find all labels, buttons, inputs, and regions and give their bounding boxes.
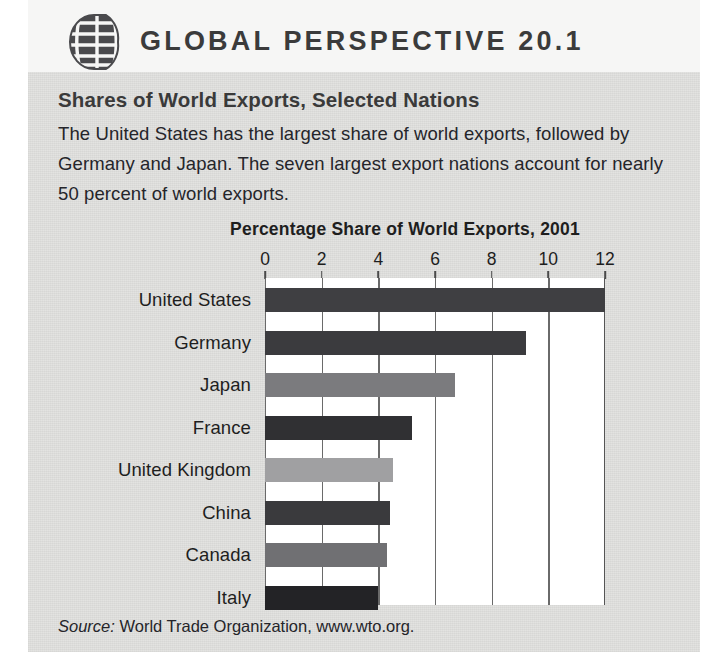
y-axis-category-labels: United StatesGermanyJapanFranceUnited Ki… [60,278,260,605]
x-tick-label: 8 [487,249,497,270]
figure-page: GLOBAL PERSPECTIVE 20.1 Shares of World … [0,0,720,660]
globe-icon [66,14,122,70]
bar-series [265,278,604,605]
bar [265,416,412,440]
x-tick-label: 6 [430,249,440,270]
category-label: United States [139,289,251,311]
x-tick-label: 4 [373,249,383,270]
category-label: Germany [174,332,251,354]
figure-subhead: Shares of World Exports, Selected Nation… [58,88,480,112]
bar [265,501,390,525]
source-label: Source: [58,617,115,635]
figure-description: The United States has the largest share … [58,119,673,209]
source-note: Source: World Trade Organization, www.wt… [58,617,414,636]
chart-plot-area [265,278,605,605]
source-text: World Trade Organization, www.wto.org. [119,617,414,635]
figure-title: GLOBAL PERSPECTIVE 20.1 [140,26,584,57]
chart-title: Percentage Share of World Exports, 2001 [200,219,610,240]
bar [265,543,387,567]
category-label: Italy [217,587,251,609]
x-tick-label: 12 [595,249,614,270]
category-label: Canada [186,544,251,566]
x-tick-label: 10 [539,249,558,270]
category-label: China [202,502,251,524]
category-label: Japan [200,374,251,396]
category-label: France [193,417,251,439]
bar [265,586,378,610]
figure-header-band: GLOBAL PERSPECTIVE 20.1 [28,0,700,72]
x-tick-label: 2 [317,249,327,270]
bar [265,331,526,355]
category-label: United Kingdom [118,459,251,481]
bar [265,458,393,482]
x-tick-label: 0 [260,249,270,270]
x-axis: 024681012 [240,249,640,275]
bar [265,373,455,397]
bar [265,288,605,312]
